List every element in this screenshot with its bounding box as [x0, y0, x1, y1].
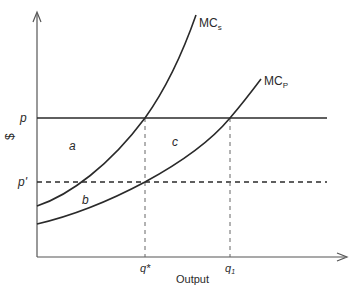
x-axis-label: Output — [176, 273, 209, 285]
mc-private-label: MCP — [264, 74, 288, 90]
mc-social-curve — [37, 15, 196, 206]
q1-label: q1 — [225, 262, 235, 275]
q-star-label: q* — [140, 262, 151, 274]
p-prime-label: p' — [17, 175, 28, 189]
p-label: p — [19, 111, 27, 125]
mc-social-label: MCs — [199, 16, 222, 32]
region-c-label: c — [172, 135, 178, 149]
y-axis-label: $ — [3, 133, 17, 140]
region-b-label: b — [82, 193, 89, 207]
mc-diagram: MCs MCP p p' $ q* q1 Output a b c — [0, 0, 355, 287]
region-a-label: a — [69, 139, 76, 153]
